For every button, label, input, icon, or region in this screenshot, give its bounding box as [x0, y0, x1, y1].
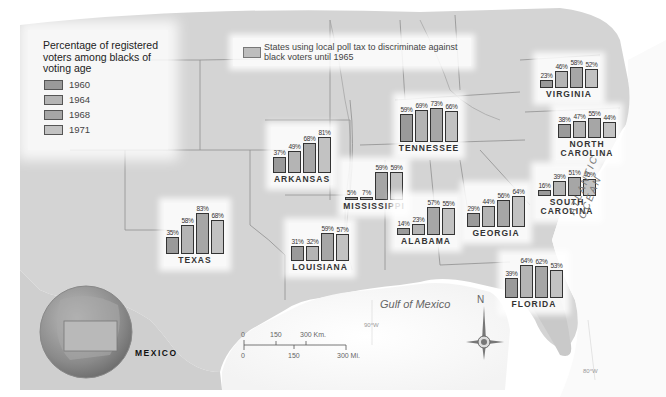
bar-1960 — [538, 190, 551, 196]
legend-item-1964: 1964 — [44, 94, 90, 105]
scale-mi-0: 0 — [241, 352, 245, 359]
bar-1960 — [397, 228, 410, 235]
bar-value-label: 59% — [388, 164, 406, 171]
bar-1960 — [273, 157, 286, 173]
state-chart-arkansas: 37%49%68%81%ARKANSAS — [273, 127, 331, 173]
bar-1968 — [430, 108, 443, 142]
state-name-label: FLORIDA — [485, 300, 583, 310]
bar-1960 — [540, 80, 553, 88]
bar-1964 — [412, 224, 425, 236]
legend-label: 1971 — [69, 124, 90, 135]
bar-1960 — [166, 237, 179, 255]
bar-1968 — [497, 200, 510, 227]
poll-tax-swatch — [243, 47, 261, 58]
bar-1971 — [445, 111, 458, 142]
bar-1968 — [427, 207, 440, 236]
bar-1964 — [415, 110, 428, 142]
state-chart-texas: 35%58%83%68%TEXAS — [166, 203, 224, 255]
legend-swatch — [44, 110, 63, 120]
legend-swatch — [44, 95, 63, 105]
legend-label: 1968 — [69, 109, 90, 120]
bar-1964 — [553, 181, 566, 196]
scale-mi-300: 300 Mi. — [337, 352, 360, 359]
bar-1964 — [306, 246, 319, 261]
bar-value-label: 64% — [510, 188, 528, 195]
bar-1964 — [360, 197, 373, 200]
bar-1968 — [196, 213, 209, 255]
legend-title: Percentage of registered voters among bl… — [43, 40, 173, 75]
scale-mi-150: 150 — [288, 352, 300, 359]
longitude-label: 90°W — [364, 322, 379, 328]
bar-value-label: 81% — [316, 129, 334, 136]
state-name-label: TENNESSEE — [380, 144, 478, 154]
bar-1960 — [291, 246, 304, 261]
legend-label: 1964 — [69, 94, 90, 105]
state-chart-florida: 39%64%62%53%FLORIDA — [505, 255, 563, 298]
bar-1964 — [573, 121, 586, 138]
legend-item-1960: 1960 — [44, 79, 90, 90]
bar-1964 — [482, 206, 495, 227]
bar-1960 — [505, 278, 518, 298]
bar-1960 — [400, 114, 413, 142]
state-name-label: GEORGIA — [447, 229, 545, 239]
bar-1971 — [211, 220, 224, 254]
state-chart-tennessee: 59%69%73%66%TENNESSEE — [400, 98, 458, 142]
legend-swatch — [44, 125, 63, 135]
bar-1964 — [555, 71, 568, 88]
bar-1968 — [570, 67, 583, 88]
bar-1971 — [585, 69, 598, 88]
bar-1960 — [558, 124, 571, 138]
bar-1960 — [345, 197, 358, 200]
bar-value-label: 55% — [440, 200, 458, 207]
state-name-label: NORTH CAROLINA — [538, 140, 636, 159]
state-name-label: ARKANSAS — [253, 175, 351, 185]
bar-1964 — [520, 265, 533, 298]
state-name-label: TEXAS — [146, 256, 244, 266]
state-chart-mississippi: 5%7%59%59%MISSISSIPPI — [345, 162, 403, 200]
gulf-of-mexico-label: Gulf of Mexico — [380, 298, 450, 310]
bar-1968 — [535, 266, 548, 298]
legend-item-1968: 1968 — [44, 109, 90, 120]
bar-1971 — [318, 137, 331, 173]
scale-km-300: 300 Km. — [300, 331, 326, 338]
poll-tax-label: States using local poll tax to discrimin… — [264, 42, 474, 62]
state-name-label: LOUISIANA — [271, 263, 369, 273]
bar-1971 — [512, 196, 525, 227]
state-chart-georgia: 29%44%56%64%GEORGIA — [467, 186, 525, 227]
mexico-label: MEXICO — [135, 348, 178, 358]
bar-1971 — [550, 270, 563, 298]
legend-item-1971: 1971 — [44, 124, 90, 135]
bar-value-label: 57% — [334, 226, 352, 233]
state-chart-louisiana: 31%32%59%57%LOUISIANA — [291, 223, 349, 261]
north-label: N — [477, 294, 484, 305]
bar-1971 — [336, 234, 349, 261]
bar-1960 — [467, 213, 480, 227]
state-chart-virginia: 23%46%58%52%VIRGINIA — [540, 57, 598, 88]
scale-km-0: 0 — [241, 331, 245, 338]
scale-km-150: 150 — [270, 331, 282, 338]
bar-value-label: 83% — [194, 205, 212, 212]
legend-label: 1960 — [69, 79, 90, 90]
state-name-label: VIRGINIA — [520, 90, 618, 100]
bar-1968 — [375, 172, 388, 200]
bar-1964 — [288, 151, 301, 173]
bar-1968 — [303, 143, 316, 173]
bar-1964 — [181, 225, 194, 254]
legend-swatch — [44, 80, 63, 90]
longitude-label: 80°W — [583, 368, 598, 374]
bar-1968 — [321, 233, 334, 261]
